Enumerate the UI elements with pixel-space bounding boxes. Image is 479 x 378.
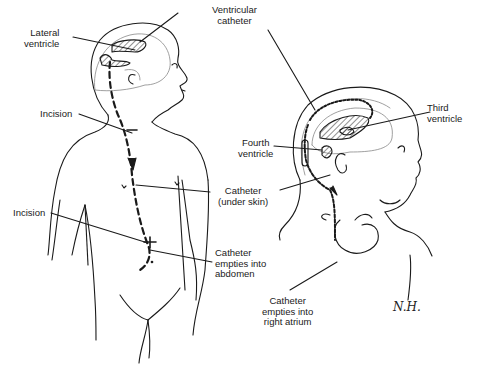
- third-ventricle-shape: [340, 127, 354, 135]
- label-catheter-atrium: Catheter empties into right atrium: [262, 296, 313, 328]
- label-incision-abdomen: Incision: [13, 208, 45, 219]
- label-fourth-ventricle: Fourth ventricle: [238, 138, 273, 159]
- label-catheter-under-skin: Catheter (under skin): [218, 186, 268, 207]
- vp-catheter: [109, 62, 149, 270]
- fourth-ventricle-shape: [322, 146, 332, 158]
- left-child-figure: [48, 23, 209, 363]
- va-catheter: [305, 125, 335, 240]
- shunt-diagram: Lateral ventricle Incision Incision Vent…: [0, 0, 479, 378]
- label-third-ventricle: Third ventricle: [427, 103, 462, 124]
- artist-signature: N.H.: [393, 300, 421, 314]
- label-ventricular-catheter: Ventricular catheter: [212, 5, 257, 26]
- label-catheter-abdomen: Catheter empties into abdomen: [215, 248, 266, 280]
- label-lateral-ventricle: Lateral ventricle: [24, 28, 59, 49]
- label-incision-neck: Incision: [40, 109, 72, 120]
